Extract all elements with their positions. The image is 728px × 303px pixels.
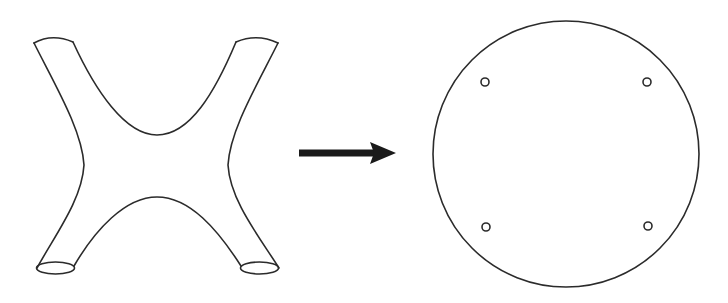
hole-top-right	[643, 78, 651, 86]
top-left-end-cap	[34, 38, 73, 43]
right-arrow-icon	[299, 142, 396, 164]
diagram-canvas	[0, 0, 728, 303]
right-outer-side	[228, 43, 279, 268]
hole-bottom-left	[482, 223, 490, 231]
top-right-end-cap	[236, 38, 278, 43]
upper-inner-curve	[73, 42, 236, 135]
hole-top-left	[481, 78, 489, 86]
disk-boundary	[433, 21, 699, 287]
bottom-right-end-ellipse	[241, 262, 279, 274]
left-outer-side	[34, 43, 84, 268]
x-shaped-surface	[34, 38, 279, 274]
bottom-left-end-ellipse	[37, 262, 75, 274]
hole-bottom-right	[644, 222, 652, 230]
lower-inner-curve	[74, 197, 241, 266]
disk-with-holes	[433, 21, 699, 287]
